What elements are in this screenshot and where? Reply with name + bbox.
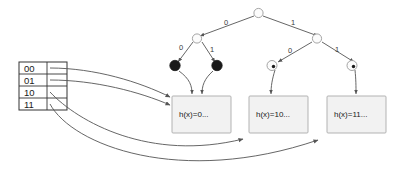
trie-leaf-11-dot <box>352 65 355 68</box>
edge-label-root-left: 0 <box>224 18 228 27</box>
trie-leaf-00[interactable] <box>170 60 180 70</box>
pointer-leaf10-to-bucket-10 <box>271 70 275 94</box>
trie-node-root[interactable] <box>254 8 263 17</box>
bucket-label-11: h(x)=11... <box>334 110 367 119</box>
trie-nodes <box>170 8 357 70</box>
bucket-label-10: h(x)=10... <box>256 110 290 119</box>
diagram-canvas: 0 1 0 1 0 1 <box>0 0 400 187</box>
directory-entry-10-label: 10 <box>24 87 35 98</box>
trie-leaf-01[interactable] <box>212 60 222 70</box>
trie-node-1[interactable] <box>312 34 321 43</box>
pointer-00-to-bucket-0 <box>50 68 170 97</box>
directory-labels: 00 01 10 11 <box>24 63 35 110</box>
trie-edge-right-left <box>278 42 312 62</box>
pointer-01-to-bucket-0 <box>50 80 170 105</box>
trie-leaf-11[interactable] <box>347 61 357 71</box>
bucket-label-0: h(x)=0... <box>179 110 209 119</box>
pointer-leaf11-to-bucket-11 <box>355 70 356 94</box>
bucket-labels: h(x)=0... h(x)=10... h(x)=11... <box>179 110 367 119</box>
trie-node-0[interactable] <box>192 34 201 43</box>
pointer-leaf00-to-bucket-0 <box>179 71 192 94</box>
directory-entry-01-label: 01 <box>24 75 35 86</box>
diagram-svg: 0 1 0 1 0 1 <box>0 0 400 187</box>
trie-leaf-10-dot <box>272 65 275 68</box>
edge-label-right-left: 0 <box>288 46 292 55</box>
edge-label-root-right: 1 <box>291 18 295 27</box>
trie-edges <box>178 16 354 62</box>
edge-label-right-right: 1 <box>335 45 339 54</box>
directory-entry-00-label: 00 <box>24 63 35 74</box>
edge-label-left-left: 0 <box>179 43 183 52</box>
trie-leaf-10[interactable] <box>267 61 277 71</box>
trie-leaf-pointers <box>179 70 356 94</box>
edge-label-left-right: 1 <box>210 45 214 54</box>
directory-entry-11-label: 11 <box>24 99 34 110</box>
pointer-leaf01-to-bucket-0 <box>202 71 213 94</box>
